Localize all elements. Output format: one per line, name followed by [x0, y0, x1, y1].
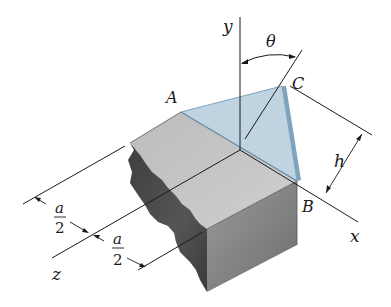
svg-text:a: a [113, 230, 122, 248]
arrowhead [139, 263, 146, 267]
arrowhead [241, 59, 248, 64]
a-extension-line-1 [23, 146, 125, 204]
point-c-label: C [292, 74, 304, 93]
point-a-label: A [164, 88, 178, 107]
svg-text:2: 2 [113, 251, 123, 269]
arrowhead [34, 197, 41, 202]
a-half-fraction-1: a 2 [54, 199, 66, 237]
svg-text:a: a [55, 199, 64, 217]
theta-arc [242, 55, 295, 63]
point-b-label: B [301, 197, 314, 216]
a-half-fraction-2: a 2 [112, 230, 124, 269]
h-label: h [334, 151, 345, 171]
arrowhead [356, 134, 362, 141]
z-axis-label: z [51, 264, 62, 284]
x-axis-label: x [350, 226, 360, 246]
theta-label: θ [266, 32, 276, 51]
h-extension-line [290, 86, 372, 135]
bar-diagram: y θ C A B h x z a 2 a 2 [0, 0, 391, 307]
y-axis-label: y [222, 16, 233, 36]
arrowhead [82, 228, 89, 233]
svg-text:2: 2 [55, 219, 65, 237]
